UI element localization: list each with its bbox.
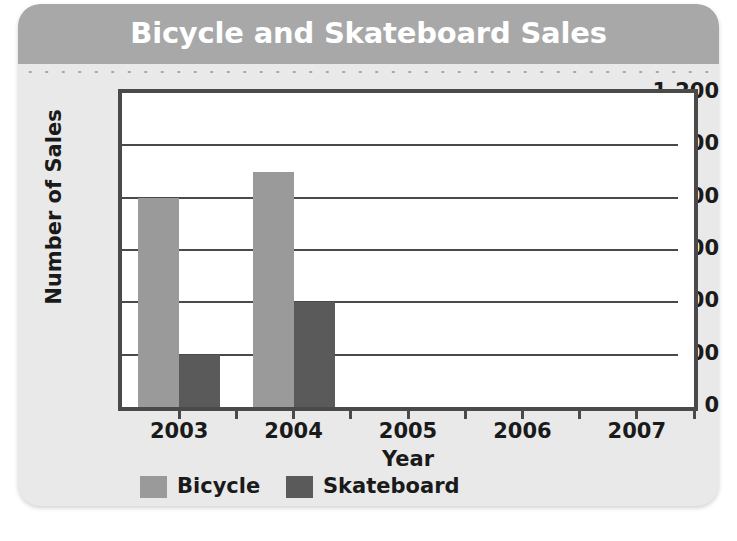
y-axis-title: Number of Sales (42, 87, 66, 327)
chart-title: Bicycle and Skateboard Sales (18, 4, 719, 64)
title-band: Bicycle and Skateboard Sales (18, 4, 719, 64)
bar-bicycle-2004 (253, 172, 294, 408)
x-tick (407, 407, 410, 419)
x-tick (235, 407, 238, 419)
legend-item-bicycle[interactable]: Bicycle (140, 474, 260, 500)
dotted-divider (18, 64, 719, 76)
bar-skateboard-2004 (294, 302, 335, 407)
legend-swatch-bicycle (140, 476, 167, 498)
x-tick-label-2004: 2004 (234, 419, 354, 443)
x-tick-label-2003: 2003 (119, 419, 239, 443)
x-tick (693, 407, 696, 419)
x-tick-label-2005: 2005 (348, 419, 468, 443)
y-axis: Number of Sales (18, 89, 114, 411)
x-tick-label-2007: 2007 (577, 419, 697, 443)
x-axis-title: Year (118, 447, 698, 471)
gridline (122, 144, 678, 146)
plot-inner (122, 93, 694, 407)
chart-legend: BicycleSkateboard (118, 474, 698, 502)
x-tick (635, 407, 638, 419)
x-tick-label-2006: 2006 (462, 419, 582, 443)
plot-area (118, 89, 698, 411)
legend-swatch-skateboard (286, 476, 313, 498)
bar-bicycle-2003 (138, 198, 179, 407)
gridline (122, 197, 678, 199)
gridline (122, 301, 678, 303)
x-tick (464, 407, 467, 419)
x-tick (521, 407, 524, 419)
x-tick (292, 407, 295, 419)
gridline (122, 249, 678, 251)
legend-label: Skateboard (323, 474, 460, 498)
x-tick (349, 407, 352, 419)
legend-label: Bicycle (177, 474, 260, 498)
chart-card: Bicycle and Skateboard Sales Number of S… (18, 4, 719, 506)
x-tick (578, 407, 581, 419)
bar-skateboard-2003 (179, 355, 220, 407)
legend-item-skateboard[interactable]: Skateboard (286, 474, 460, 500)
x-tick (178, 407, 181, 419)
